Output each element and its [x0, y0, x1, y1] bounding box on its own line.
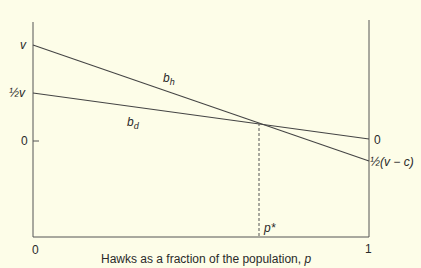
- dove-line-label: bd: [127, 116, 139, 131]
- left-tick-zero: 0: [21, 135, 28, 147]
- x-axis-label-var: p: [304, 252, 311, 266]
- hawk-line-label-base: b: [163, 71, 170, 85]
- left-tick-half-v: ½v: [9, 87, 25, 99]
- hawk-payoff-line: [33, 45, 369, 161]
- x-tick-one: 1: [365, 243, 372, 255]
- x-axis-label: Hawks as a fraction of the population, p: [101, 253, 311, 265]
- equilibrium-label: p*: [264, 222, 275, 234]
- right-tick-half-v-minus-c: ½(v − c): [370, 156, 414, 168]
- dove-line-label-sub: d: [134, 121, 139, 131]
- hawk-line-label-sub: h: [170, 77, 175, 87]
- dove-line-label-base: b: [127, 115, 134, 129]
- right-tick-zero: 0: [374, 134, 381, 146]
- x-tick-zero: 0: [32, 244, 39, 256]
- x-axis-label-text: Hawks as a fraction of the population,: [101, 252, 301, 266]
- left-tick-v: v: [20, 39, 26, 51]
- hawk-line-label: bh: [163, 72, 175, 87]
- dove-payoff-line: [33, 93, 369, 139]
- payoff-diagram: [0, 0, 421, 268]
